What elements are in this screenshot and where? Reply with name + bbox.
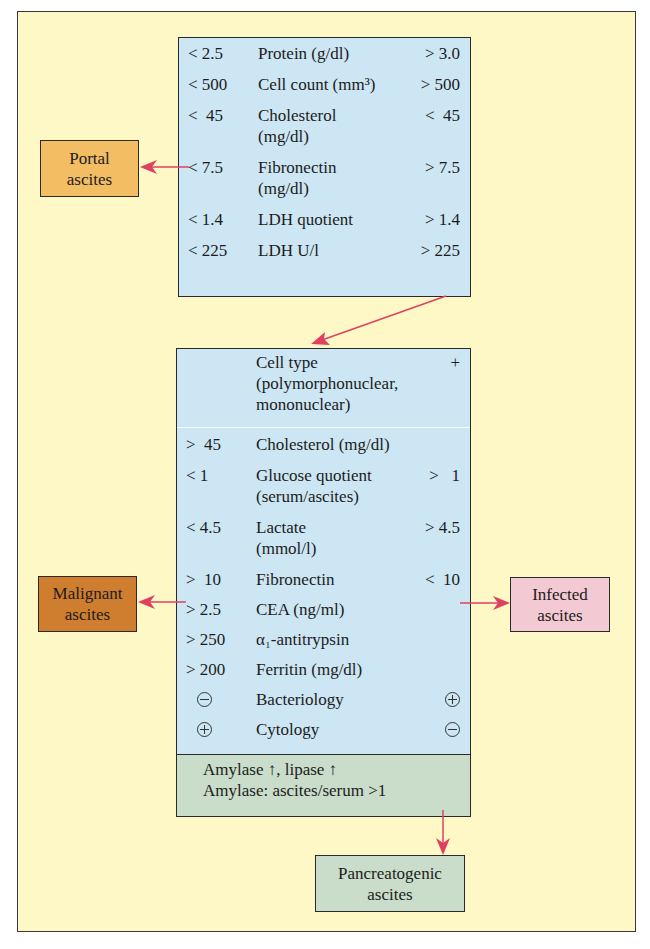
threshold-right: < 10 [425,569,460,590]
criterion-label: Ferritin (mg/dl) [256,659,362,680]
criterion-label: Bacteriology [256,689,344,710]
threshold-left: > 45 [186,434,221,455]
threshold-left: < 4.5 [186,517,221,538]
threshold-left: < 1 [186,465,208,486]
amylase-ratio-line: Amylase: ascites/serum >1 [203,781,386,800]
threshold-right: > 1.4 [425,209,460,230]
portal-ascites-box: Portal ascites [40,140,139,197]
minus-circle-icon [197,689,212,710]
threshold-left: > 200 [186,659,225,680]
criterion-label-line2: (serum/ascites) [256,487,359,506]
outcome-label-line1: Malignant [53,584,123,603]
threshold-left: < 7.5 [188,157,223,178]
criterion-label: Cholesterol (mg/dl) [256,434,390,455]
threshold-right: > 7.5 [425,157,460,178]
threshold-left: < 2.5 [188,43,223,64]
threshold-right: > 1 [429,465,460,486]
criterion-label: Fibronectin (mg/dl) [258,157,336,199]
criterion-label: LDH U/l [258,240,319,261]
threshold-right: > 3.0 [425,43,460,64]
threshold-left: < 1.4 [188,209,223,230]
criterion-label: CEA (ng/ml) [256,599,344,620]
threshold-right: + [450,352,460,373]
outcome-label-line1: Infected [532,585,588,604]
criterion-label-line1: Fibronectin [258,158,336,177]
malignant-ascites-box: Malignant ascites [38,576,137,632]
criterion-label: Cytology [256,719,319,740]
criterion-label-line2: (mg/dl) [258,127,309,146]
criterion-label: Glucose quotient (serum/ascites) [256,465,372,507]
criterion-label: Cholesterol (mg/dl) [258,105,336,147]
criterion-label-line2: (mmol/l) [256,539,316,558]
criterion-label: α₁-antitrypsin [256,629,349,650]
pancreatogenic-ascites-box: Pancreatogenic ascites [315,855,465,912]
outcome-label-line2: ascites [537,606,582,625]
criterion-label: Lactate (mmol/l) [256,517,316,559]
row-divider [177,427,470,428]
threshold-left: > 10 [186,569,221,590]
threshold-left: > 2.5 [186,599,221,620]
plus-circle-icon [197,719,212,740]
outcome-label-line1: Pancreatogenic [338,864,442,883]
outcome-label-line2: ascites [367,885,412,904]
threshold-left: < 225 [188,240,227,261]
threshold-right: < 45 [425,105,460,126]
infected-ascites-box: Infected ascites [510,577,610,632]
criterion-label-line1: Cell type [256,353,318,372]
secondary-criteria-table: Cell type (polymorphonuclear, mononuclea… [176,348,471,817]
criterion-label-line3: mononuclear) [256,395,350,414]
outcome-label-line1: Portal [69,149,110,168]
criterion-label: LDH quotient [258,209,353,230]
threshold-right: > 500 [421,74,460,95]
outcome-label-line2: ascites [67,170,112,189]
amylase-lipase-line: Amylase ↑, lipase ↑ [203,760,337,779]
primary-criteria-table: < 2.5 Protein (g/dl) > 3.0 < 500 Cell co… [178,37,471,297]
criterion-label-line2: (mg/dl) [258,179,309,198]
outcome-label-line2: ascites [65,605,110,624]
threshold-left: > 250 [186,629,225,650]
criterion-label-line1: Lactate [256,518,306,537]
plus-circle-icon [445,689,460,710]
threshold-left: < 500 [188,74,227,95]
criterion-label: Protein (g/dl) [258,43,349,64]
pancreatic-criteria-text: Amylase ↑, lipase ↑ Amylase: ascites/ser… [203,759,386,801]
criterion-label-line1: Cholesterol [258,106,336,125]
criterion-label-line2: (polymorphonuclear, [256,374,398,393]
threshold-right: > 225 [421,240,460,261]
minus-circle-icon [445,719,460,740]
criterion-label: Fibronectin [256,569,334,590]
criterion-label: Cell type (polymorphonuclear, mononuclea… [256,352,398,415]
threshold-right: > 4.5 [425,517,460,538]
pancreatic-criteria: Amylase ↑, lipase ↑ Amylase: ascites/ser… [177,754,470,816]
criterion-label: Cell count (mm³) [258,74,375,95]
criterion-label-line1: Glucose quotient [256,466,372,485]
threshold-left: < 45 [188,105,223,126]
